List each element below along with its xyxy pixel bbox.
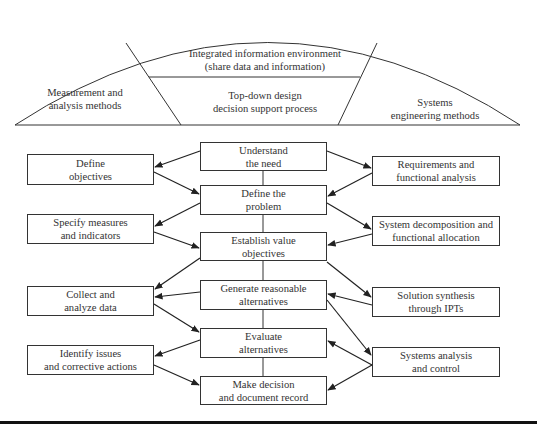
method-collect-analyze-data: Collect and analyze data xyxy=(27,286,154,316)
decision-process-diagram: Measurement and analysis methods Integra… xyxy=(0,0,537,426)
arc-label-measurement: Measurement and analysis methods xyxy=(30,86,140,112)
method-requirements-analysis: Requirements and functional analysis xyxy=(372,156,500,186)
method-systems-analysis-control: Systems analysis and control xyxy=(372,347,500,377)
arc-label-top-down-design: Top-down design decision support process xyxy=(175,89,355,115)
method-specify-measures: Specify measures and indicators xyxy=(27,214,154,244)
method-define-objectives: Define objectives xyxy=(27,154,154,185)
arc-label-integrated-environment: Integrated information environment (shar… xyxy=(160,47,370,73)
step-make-decision: Make decision and document record xyxy=(200,376,327,405)
arc-label-systems-engineering: Systems engineering methods xyxy=(375,96,495,122)
step-understand-need: Understand the need xyxy=(200,142,327,171)
figure-bottom-rule xyxy=(0,421,537,424)
method-system-decomposition: System decomposition and functional allo… xyxy=(372,216,500,246)
step-define-problem: Define the problem xyxy=(200,185,327,215)
step-generate-alternatives: Generate reasonable alternatives xyxy=(200,280,327,310)
method-solution-synthesis: Solution synthesis through IPTs xyxy=(372,287,500,317)
step-establish-value-objectives: Establish value objectives xyxy=(200,232,327,261)
step-evaluate-alternatives: Evaluate alternatives xyxy=(200,328,327,358)
method-identify-issues: Identify issues and corrective actions xyxy=(27,345,154,375)
right-arrows xyxy=(327,151,372,390)
left-arrows xyxy=(154,151,200,385)
